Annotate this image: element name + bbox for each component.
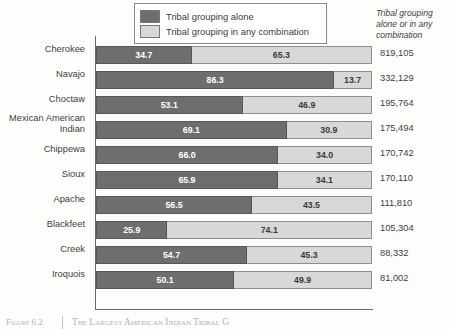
bar-segment-combination: 45.3 xyxy=(247,246,372,264)
total-count: 170,742 xyxy=(380,148,449,158)
totals-column-header: Tribal grouping alone or in any combinat… xyxy=(376,8,449,41)
bar-segment-combination: 49.9 xyxy=(234,271,372,289)
chart-row: Creek54.745.388,332 xyxy=(0,244,449,269)
stacked-bar: 86.313.7 xyxy=(96,71,372,89)
stacked-bar: 50.149.9 xyxy=(96,271,372,289)
legend-item-alone: Tribal grouping alone xyxy=(140,9,321,23)
bar-segment-alone: 53.1 xyxy=(96,96,243,114)
legend-label-alone: Tribal grouping alone xyxy=(166,11,254,22)
category-label: Sioux xyxy=(0,169,89,180)
chart-row: Navajo86.313.7332,129 xyxy=(0,69,449,94)
bar-segment-alone: 65.9 xyxy=(96,171,278,189)
bar-segment-alone: 86.3 xyxy=(96,71,334,89)
bar-segment-combination: 43.5 xyxy=(252,196,372,214)
stacked-bar: 56.543.5 xyxy=(96,196,372,214)
bar-segment-alone: 54.7 xyxy=(96,246,247,264)
x-axis-baseline xyxy=(95,309,373,310)
total-count: 170,110 xyxy=(380,173,449,183)
total-count: 175,494 xyxy=(380,123,449,133)
bar-segment-alone: 66.0 xyxy=(96,146,278,164)
bar-segment-combination: 65.3 xyxy=(192,46,372,64)
legend-swatch-combination-icon xyxy=(140,25,160,38)
stacked-bar: 25.974.1 xyxy=(96,221,372,239)
chart-row: Apache56.543.5111,810 xyxy=(0,194,449,219)
total-count: 195,764 xyxy=(380,98,449,108)
total-count: 81,002 xyxy=(380,273,449,283)
bar-segment-combination: 34.0 xyxy=(278,146,372,164)
bar-segment-combination: 13.7 xyxy=(334,71,372,89)
category-label: Navajo xyxy=(0,69,89,80)
figure-title: The Largest American Indian Tribal G xyxy=(72,317,229,327)
total-count: 111,810 xyxy=(380,198,449,208)
chart-row: Cherokee34.765.3819,105 xyxy=(0,44,449,69)
category-label: Cherokee xyxy=(0,44,89,55)
category-label: Blackfeet xyxy=(0,219,89,230)
figure-number: Figure 6.2 xyxy=(6,317,43,327)
bar-segment-alone: 25.9 xyxy=(96,221,167,239)
bar-segment-combination: 30.9 xyxy=(287,121,372,139)
chart-rows: Cherokee34.765.3819,105Navajo86.313.7332… xyxy=(0,44,449,294)
chart-row: Mexican American Indian69.130.9175,494 xyxy=(0,119,449,144)
chart-figure: Tribal grouping alone Tribal grouping in… xyxy=(0,0,449,329)
total-count: 332,129 xyxy=(380,73,449,83)
stacked-bar: 34.765.3 xyxy=(96,46,372,64)
bar-segment-combination: 74.1 xyxy=(167,221,372,239)
stacked-bar: 65.934.1 xyxy=(96,171,372,189)
total-count: 819,105 xyxy=(380,48,449,58)
stacked-bar: 53.146.9 xyxy=(96,96,372,114)
chart-legend: Tribal grouping alone Tribal grouping in… xyxy=(134,3,327,44)
bar-segment-alone: 34.7 xyxy=(96,46,192,64)
legend-item-combination: Tribal grouping in any combination xyxy=(140,24,321,38)
chart-row: Blackfeet25.974.1105,304 xyxy=(0,219,449,244)
bar-segment-combination: 46.9 xyxy=(243,96,372,114)
chart-row: Iroquois50.149.981,002 xyxy=(0,269,449,294)
category-label: Iroquois xyxy=(0,269,89,280)
category-label: Mexican American Indian xyxy=(0,113,89,134)
total-count: 88,332 xyxy=(380,248,449,258)
bar-segment-alone: 50.1 xyxy=(96,271,234,289)
bar-segment-alone: 69.1 xyxy=(96,121,287,139)
caption-divider xyxy=(62,316,63,329)
category-label: Choctaw xyxy=(0,94,89,105)
stacked-bar: 66.034.0 xyxy=(96,146,372,164)
figure-caption: Figure 6.2 The Largest American Indian T… xyxy=(0,316,449,329)
total-count: 105,304 xyxy=(380,223,449,233)
chart-row: Chippewa66.034.0170,742 xyxy=(0,144,449,169)
category-label: Chippewa xyxy=(0,144,89,155)
stacked-bar: 69.130.9 xyxy=(96,121,372,139)
bar-segment-combination: 34.1 xyxy=(278,171,372,189)
chart-row: Sioux65.934.1170,110 xyxy=(0,169,449,194)
bar-segment-alone: 56.5 xyxy=(96,196,252,214)
category-label: Creek xyxy=(0,244,89,255)
stacked-bar: 54.745.3 xyxy=(96,246,372,264)
legend-label-combination: Tribal grouping in any combination xyxy=(166,26,309,37)
category-label: Apache xyxy=(0,194,89,205)
legend-swatch-alone-icon xyxy=(140,10,160,23)
